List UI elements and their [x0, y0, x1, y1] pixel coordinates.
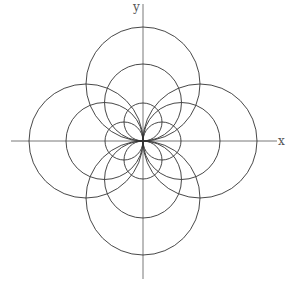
y-axis-label: y — [133, 1, 140, 13]
diagram-canvas — [0, 0, 292, 286]
x-axis-label: x — [278, 135, 285, 147]
tangent-circles-diagram: x y — [0, 0, 292, 286]
